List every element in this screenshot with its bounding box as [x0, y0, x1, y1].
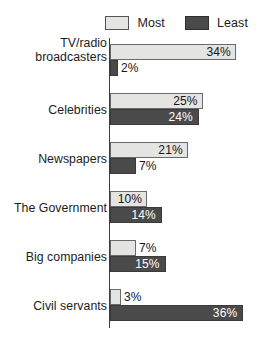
category-axis-line [109, 38, 110, 328]
bar-value-label: 21% [158, 144, 186, 156]
bar-group: TV/radiobroadcasters34%2% [0, 44, 257, 78]
bar-most: 21% [110, 142, 188, 158]
plot-area: TV/radiobroadcasters34%2%Celebrities25%2… [0, 38, 257, 338]
bar-value-label: 2% [117, 62, 139, 74]
bar-group: Big companies7%15% [0, 240, 257, 274]
bar-group: Celebrities25%24% [0, 93, 257, 127]
legend-item-most: Most [105, 16, 165, 30]
bar-least: 14% [110, 207, 162, 223]
category-label: The Government [0, 202, 107, 216]
legend-item-least: Least [185, 16, 248, 30]
bar-pair: 21%7% [110, 142, 188, 174]
bar-most: 7% [110, 240, 136, 256]
bar-pair: 25%24% [110, 93, 203, 125]
bar-value-label: 7% [135, 160, 157, 172]
bar-value-label: 24% [168, 111, 197, 123]
bar-pair: 34%2% [110, 44, 236, 76]
legend-swatch-least-icon [185, 16, 209, 30]
bar-pair: 7%15% [110, 240, 166, 272]
chart-legend: Most Least [0, 16, 257, 30]
bar-pair: 3%36% [110, 289, 243, 321]
bar-chart: Most Least TV/radiobroadcasters34%2%Cele… [0, 0, 257, 344]
bar-value-label: 14% [131, 209, 160, 221]
bar-group: Newspapers21%7% [0, 142, 257, 176]
bar-least: 36% [110, 305, 243, 321]
bar-group: Civil servants3%36% [0, 289, 257, 323]
bar-value-label: 7% [135, 242, 157, 254]
legend-label-least: Least [217, 17, 248, 30]
bar-value-label: 36% [213, 307, 242, 319]
bar-value-label: 10% [118, 193, 146, 205]
legend-swatch-most-icon [105, 16, 129, 30]
category-label: Celebrities [0, 104, 107, 118]
legend-label-most: Most [137, 17, 165, 30]
bar-most: 10% [110, 191, 147, 207]
bar-least: 24% [110, 109, 199, 125]
category-label: TV/radiobroadcasters [0, 37, 107, 64]
bar-least: 2% [110, 60, 118, 76]
bar-least: 7% [110, 158, 136, 174]
category-label: Civil servants [0, 300, 107, 314]
bar-least: 15% [110, 256, 166, 272]
bar-value-label: 3% [120, 291, 142, 303]
bar-most: 34% [110, 44, 236, 60]
bar-value-label: 25% [173, 95, 201, 107]
bar-value-label: 15% [135, 258, 164, 270]
bar-most: 3% [110, 289, 121, 305]
category-label: Big companies [0, 251, 107, 265]
bar-group: The Government10%14% [0, 191, 257, 225]
bar-most: 25% [110, 93, 203, 109]
category-label: Newspapers [0, 153, 107, 167]
bar-value-label: 34% [206, 46, 234, 58]
bar-pair: 10%14% [110, 191, 162, 223]
